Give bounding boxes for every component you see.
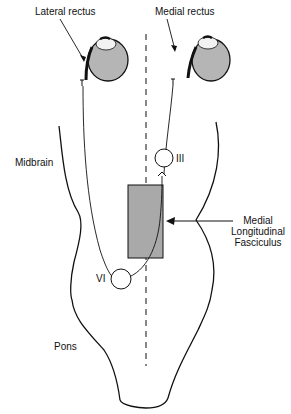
right-eye <box>188 37 230 82</box>
abducens-nerve <box>83 86 116 280</box>
label-medial-rectus: Medial rectus <box>155 6 214 17</box>
label-lateral-rectus: Lateral rectus <box>35 6 96 17</box>
label-mlf-line1: Medial <box>222 215 291 226</box>
label-midbrain: Midbrain <box>15 157 53 168</box>
mlf-box <box>128 185 163 258</box>
nucleus-iii <box>155 149 173 167</box>
lateral-rectus-pointer <box>60 19 84 60</box>
label-mlf-line3: Fasciculus <box>222 237 291 248</box>
brainstem-outline-left <box>59 126 120 400</box>
synapse-iii <box>158 172 166 176</box>
synapse-right <box>171 79 175 85</box>
label-nucleus-iii: III <box>176 153 184 164</box>
label-pons: Pons <box>54 341 77 352</box>
arrowhead <box>171 45 177 52</box>
arrowhead <box>80 55 86 62</box>
medial-rectus-pointer <box>167 19 175 50</box>
label-mlf: Medial Longitudinal Fasciculus <box>222 215 291 248</box>
brainstem-diagram <box>0 0 291 414</box>
synapse-left <box>80 80 84 86</box>
nucleus-vi <box>111 269 131 289</box>
brainstem-outline-bottom <box>120 398 168 408</box>
mlf-arrowhead <box>166 217 175 225</box>
label-mlf-line2: Longitudinal <box>222 226 291 237</box>
label-nucleus-vi: VI <box>96 273 105 284</box>
left-eye <box>86 38 128 82</box>
